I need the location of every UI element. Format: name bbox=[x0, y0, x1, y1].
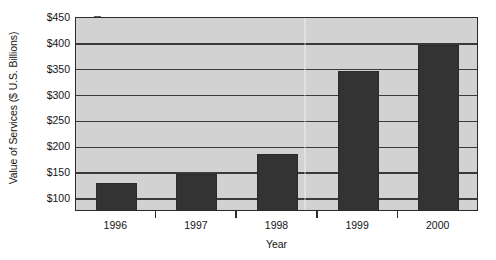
y-axis-tick-label: $200 bbox=[47, 140, 70, 152]
x-axis-tick-marks bbox=[75, 211, 478, 219]
y-axis-tick-label: $150 bbox=[47, 166, 70, 178]
bar bbox=[418, 45, 459, 211]
bar bbox=[338, 71, 379, 211]
gridline bbox=[76, 121, 477, 123]
x-axis-title: Year bbox=[75, 238, 478, 250]
y-axis-title: Value of Services ($ U.S. Billions) bbox=[0, 0, 26, 215]
x-axis-tick-labels: 19961997199819992000 bbox=[75, 219, 478, 235]
x-axis-tick-label: 1998 bbox=[265, 219, 288, 231]
y-axis-tick-label: $300 bbox=[47, 89, 70, 101]
y-axis-tick-label: $400 bbox=[47, 37, 70, 49]
y-axis-tick-labels: $100$150$200$250$300$350$400$450 bbox=[26, 0, 74, 260]
y-axis-tick-label: $100 bbox=[47, 192, 70, 204]
x-axis-tick-label: 1999 bbox=[345, 219, 368, 231]
bar bbox=[257, 154, 298, 211]
x-axis-tick-mark bbox=[316, 211, 318, 218]
x-axis-tick-mark bbox=[235, 211, 237, 218]
y-axis-title-text: Value of Services ($ U.S. Billions) bbox=[7, 31, 19, 184]
plot-area bbox=[75, 17, 478, 211]
x-axis-tick-label: 1997 bbox=[184, 219, 207, 231]
x-axis-tick-label: 1996 bbox=[104, 219, 127, 231]
bar bbox=[96, 183, 137, 212]
x-axis-tick-label: 2000 bbox=[426, 219, 449, 231]
gridline bbox=[76, 147, 477, 149]
gridline bbox=[76, 69, 477, 71]
gridline bbox=[76, 43, 477, 45]
scan-seam-artifact bbox=[304, 18, 306, 210]
bar bbox=[176, 174, 217, 211]
y-axis-tick-label: $450 bbox=[47, 11, 70, 23]
x-axis-tick-mark bbox=[397, 211, 399, 218]
x-axis-tick-mark bbox=[155, 211, 157, 218]
y-axis-tick-label: $250 bbox=[47, 114, 70, 126]
gridline bbox=[76, 95, 477, 97]
y-axis-tick-label: $350 bbox=[47, 63, 70, 75]
bar-chart-figure: Value of Services ($ U.S. Billions) $100… bbox=[0, 0, 496, 260]
